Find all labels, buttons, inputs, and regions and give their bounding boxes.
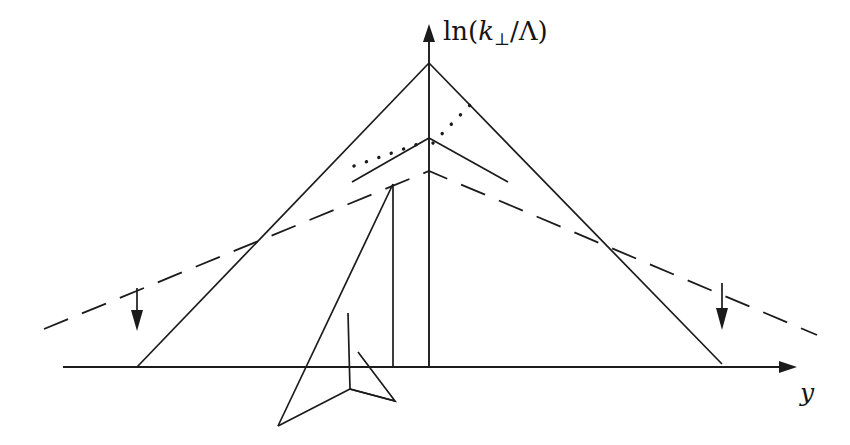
y-axis-label-close: )	[538, 16, 548, 46]
y-axis-label-ln: ln(	[443, 16, 478, 46]
y-axis-label-lambda: Λ	[519, 16, 538, 46]
y-axis-label-perp: ⊥	[494, 29, 510, 49]
dashed-envelope	[44, 171, 817, 335]
outer-cascade-left-leg	[137, 63, 429, 367]
y-axis-label-slash: /	[510, 16, 519, 46]
diagram-canvas	[0, 0, 850, 445]
vertical-axis-arrowhead	[423, 24, 435, 42]
outer-cascade-right-leg	[429, 63, 722, 364]
subjet-arrowhead	[348, 313, 395, 401]
y-axis-label: ln(k⊥/Λ)	[443, 16, 548, 49]
downward-arrow-left-head	[131, 310, 143, 331]
subjet-spike-slant	[278, 184, 393, 426]
subjet-arrowhead-left-wing	[278, 389, 350, 426]
dotted-segment-left	[354, 142, 424, 166]
figure-root: ln(k⊥/Λ) y	[0, 0, 850, 445]
horizontal-axis-arrowhead	[779, 361, 797, 373]
x-axis-label: y	[800, 378, 814, 407]
dotted-segment-right	[433, 104, 471, 143]
y-axis-label-k: k	[478, 16, 494, 46]
downward-arrow-right-head	[716, 308, 728, 330]
